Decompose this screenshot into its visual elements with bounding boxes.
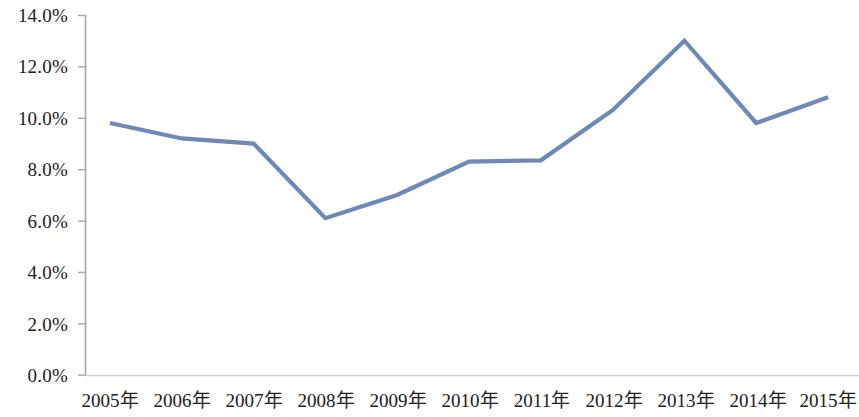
chart-svg — [0, 0, 859, 417]
chart-page: 14.0% 12.0% 10.0% 8.0% 6.0% 4.0% 2.0% 0.… — [0, 0, 859, 417]
x-axis-tick-label: 2011年 — [514, 385, 570, 412]
x-axis-tick-label: 2014年 — [730, 385, 787, 412]
data-line-series — [110, 41, 828, 218]
plot-area — [0, 0, 859, 417]
x-axis-tick-label: 2009年 — [370, 385, 427, 412]
x-axis-tick-label: 2008年 — [298, 385, 355, 412]
x-axis-tick-label: 2005年 — [82, 385, 139, 412]
x-axis-tick-label: 2007年 — [226, 385, 283, 412]
x-axis-labels: 2005年 2006年 2007年 2008年 2009年 2010年 2011… — [0, 385, 859, 417]
x-axis-tick-label: 2010年 — [442, 385, 499, 412]
x-axis-tick-label: 2012年 — [586, 385, 643, 412]
x-axis-tick-label: 2015年 — [800, 385, 857, 412]
y-axis-ticks — [78, 16, 86, 376]
x-axis-tick-label: 2006年 — [154, 385, 211, 412]
x-axis-tick-label: 2013年 — [658, 385, 715, 412]
